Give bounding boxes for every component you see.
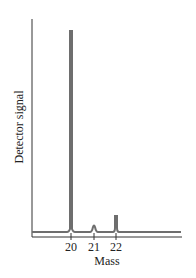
x-axis-title: Mass	[94, 254, 120, 268]
x-tick-label-21: 21	[88, 240, 100, 254]
mass-spectrum-chart: 20 21 22 Mass Detector signal	[0, 0, 196, 278]
x-tick-label-20: 20	[65, 240, 77, 254]
spectrum-trace	[32, 31, 181, 232]
y-axis-title: Detector signal	[12, 90, 26, 164]
x-tick-label-22: 22	[110, 240, 122, 254]
